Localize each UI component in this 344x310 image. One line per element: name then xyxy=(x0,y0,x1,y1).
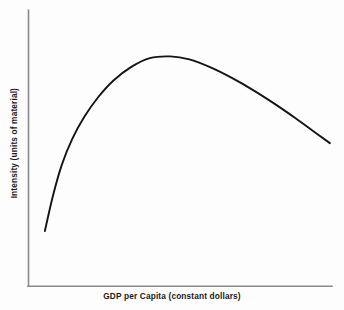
axes-group xyxy=(28,10,332,286)
chart-figure: Intensity (units of material) GDP per Ca… xyxy=(0,0,344,310)
chart-plot-area xyxy=(0,0,344,310)
curve-material-intensity xyxy=(45,56,330,231)
x-axis-label: GDP per Capita (constant dollars) xyxy=(0,292,344,300)
data-series-group xyxy=(45,56,330,231)
